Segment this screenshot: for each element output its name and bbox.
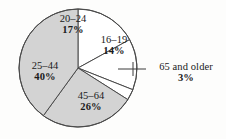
pie-label-16-19-value: 14% xyxy=(92,46,136,57)
pie-label-65-and-older-value: 3% xyxy=(146,73,226,84)
pie-label-20-24-value: 17% xyxy=(50,25,96,36)
pie-label-25-44-value: 40% xyxy=(22,72,68,83)
pie-label-20-24: 20–24 17% xyxy=(50,14,96,35)
pie-chart-figure: 20–24 17% 16–19 14% 65 and older 3% 45–6… xyxy=(0,0,226,139)
pie-label-65-and-older: 65 and older 3% xyxy=(146,62,226,83)
pie-label-45-64: 45–64 26% xyxy=(68,91,114,112)
pie-label-45-64-value: 26% xyxy=(68,102,114,113)
pie-label-25-44: 25–44 40% xyxy=(22,61,68,82)
pie-label-16-19: 16–19 14% xyxy=(92,35,136,56)
